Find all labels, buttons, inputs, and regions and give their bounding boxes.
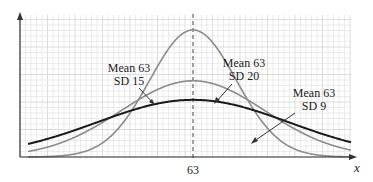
label-sd15-line2: SD 15 — [114, 74, 144, 88]
label-sd20-line1: Mean 63 — [223, 56, 265, 70]
label-sd20-line2: SD 20 — [229, 69, 259, 83]
x-axis-label: x — [353, 160, 360, 175]
label-sd15-line1: Mean 63 — [108, 61, 150, 75]
label-sd9-line2: SD 9 — [302, 99, 326, 113]
normal-distributions-chart: x 63 Mean 63 SD 15 Mean 63 SD 20 Mean 63… — [0, 0, 373, 182]
label-sd9-line1: Mean 63 — [293, 86, 335, 100]
y-axis-arrow-icon — [17, 12, 23, 20]
mean-tick-label: 63 — [187, 163, 199, 177]
